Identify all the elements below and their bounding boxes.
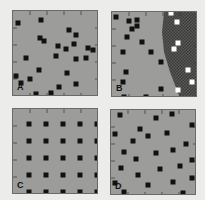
point-marker (78, 173, 83, 178)
point-marker (64, 47, 69, 52)
point-marker (65, 71, 70, 76)
point-marker (74, 57, 79, 62)
panel-b-dots (112, 12, 197, 97)
panel-d-label: D (115, 182, 122, 191)
point-marker (134, 157, 139, 162)
point-marker (190, 123, 195, 128)
point-marker (74, 33, 79, 38)
point-marker (190, 80, 195, 85)
point-marker (67, 28, 72, 33)
point-marker (122, 190, 127, 195)
point-marker (175, 20, 180, 25)
point-marker (158, 167, 163, 172)
point-marker (122, 95, 127, 98)
point-marker (27, 139, 32, 144)
point-marker (140, 40, 145, 45)
point-marker (61, 190, 66, 195)
panel-a-label: A (17, 83, 24, 92)
point-marker (176, 88, 181, 93)
panel-c-label: C (17, 181, 24, 190)
tick-marks (13, 109, 98, 194)
point-marker (34, 92, 39, 97)
point-marker (135, 18, 140, 23)
point-marker (84, 56, 89, 61)
point-marker (24, 56, 29, 61)
point-marker (154, 151, 159, 156)
point-marker (57, 85, 62, 90)
point-marker (131, 139, 136, 144)
point-marker (146, 183, 151, 188)
point-marker (144, 95, 149, 98)
point-marker (170, 112, 175, 117)
point-marker (154, 116, 159, 121)
point-marker (39, 18, 44, 23)
point-marker (119, 166, 124, 171)
point-marker (27, 122, 32, 127)
point-marker (95, 190, 99, 195)
point-marker (61, 122, 66, 127)
panel-d-dots (111, 110, 196, 195)
point-marker (171, 180, 176, 185)
point-marker (78, 122, 83, 127)
point-marker (74, 82, 79, 87)
point-marker (14, 74, 19, 79)
point-marker (56, 44, 61, 49)
point-marker (178, 164, 183, 169)
point-marker (44, 122, 49, 127)
point-marker (95, 122, 99, 127)
point-marker (186, 68, 191, 73)
point-marker (127, 19, 132, 24)
panel-b: B (111, 11, 197, 97)
point-marker (135, 24, 140, 29)
point-marker (113, 132, 118, 137)
panel-b-label: B (116, 84, 123, 93)
point-marker (138, 127, 143, 132)
point-marker (124, 70, 129, 75)
point-marker (152, 97, 157, 98)
point-marker (130, 27, 135, 32)
point-marker (28, 77, 33, 82)
point-marker (44, 156, 49, 161)
point-marker (171, 148, 176, 153)
point-marker (91, 48, 96, 53)
panel-a: A (12, 10, 98, 96)
point-marker (114, 15, 119, 20)
point-marker (78, 190, 83, 195)
point-marker (27, 190, 32, 195)
point-marker (136, 173, 141, 178)
point-marker (159, 87, 164, 92)
point-marker (165, 131, 170, 136)
point-marker (184, 142, 189, 147)
panel-a-dots (13, 11, 98, 96)
point-marker (61, 139, 66, 144)
point-marker (95, 173, 99, 178)
point-marker (172, 47, 177, 52)
point-marker (122, 150, 127, 155)
point-marker (86, 46, 91, 51)
point-marker (118, 113, 123, 118)
point-marker (44, 190, 49, 195)
panel-c-dots (13, 109, 98, 194)
point-marker (181, 191, 186, 196)
point-marker (95, 156, 99, 161)
point-marker (37, 68, 42, 73)
point-marker (159, 60, 164, 65)
point-marker (190, 176, 195, 181)
point-marker (44, 139, 49, 144)
point-marker (78, 156, 83, 161)
point-marker (61, 156, 66, 161)
point-marker (54, 54, 59, 59)
point-marker (149, 50, 154, 55)
point-marker (169, 12, 174, 16)
point-marker (95, 139, 99, 144)
point-marker (121, 50, 126, 55)
panel-c: C (12, 108, 98, 194)
point-marker (49, 91, 54, 96)
point-marker (72, 42, 77, 47)
panel-d: D (110, 109, 196, 195)
point-marker (190, 158, 195, 163)
point-marker (44, 173, 49, 178)
point-marker (61, 173, 66, 178)
point-marker (78, 139, 83, 144)
point-marker (125, 35, 130, 40)
